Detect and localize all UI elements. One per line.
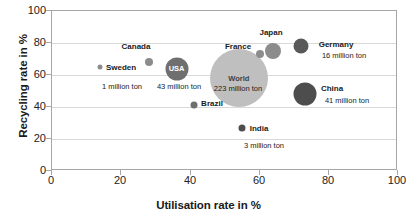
x-tick-0: 0 [31, 174, 71, 186]
annotation-name-france: France [225, 43, 251, 51]
annotation-value-usa: 43 million ton [157, 83, 201, 91]
x-tick-100: 100 [377, 174, 417, 186]
gridline-40 [52, 107, 396, 108]
annotation-name-germany: Germany [319, 41, 354, 49]
x-tick-80: 80 [308, 174, 348, 186]
bubble-brazil [190, 102, 197, 109]
bubble-canada [145, 58, 153, 66]
bubble-china [293, 83, 316, 106]
bubble-germany [294, 39, 309, 54]
gridline-20 [52, 139, 396, 140]
y-tick-40: 40 [18, 101, 46, 112]
annotation-name-china: China [321, 85, 343, 93]
x-axis-title: Utilisation rate in % [0, 199, 417, 211]
y-tick-20: 20 [18, 133, 46, 144]
y-tick-60: 60 [18, 69, 46, 80]
annotation-value-world: 223 million ton [214, 85, 262, 93]
x-tick-60: 60 [239, 174, 279, 186]
annotation-value-india: 3 million ton [244, 142, 284, 150]
bubble-india [239, 124, 246, 131]
bubble-france [256, 50, 264, 58]
annotation-name-india: India [250, 125, 269, 133]
bubble-japan [265, 43, 281, 59]
annotation-name-sweden: Sweden [106, 64, 136, 72]
annotation-name-canada: Canada [122, 43, 151, 51]
annotation-value-germany: 16 million ton [322, 52, 366, 60]
annotation-name-brazil: Brazil [201, 100, 223, 108]
annotation-value-china: 41 million ton [325, 97, 369, 105]
x-tick-20: 20 [100, 174, 140, 186]
bubble-label-usa: USA [169, 64, 185, 73]
y-tick-100: 100 [18, 5, 46, 16]
bubble-usa: USA [165, 57, 188, 80]
bubble-sweden [98, 65, 103, 70]
x-tick-40: 40 [170, 174, 210, 186]
bubble-label-world: World [228, 74, 249, 83]
bubble-chart: Recycling rate in % 100 80 60 40 20 0 0 … [0, 0, 417, 222]
annotation-name-japan: Japan [259, 29, 282, 37]
annotation-value-sweden: 1 million ton [102, 83, 142, 91]
y-axis-tick-labels: 100 80 60 40 20 0 [14, 0, 46, 222]
y-tick-80: 80 [18, 37, 46, 48]
